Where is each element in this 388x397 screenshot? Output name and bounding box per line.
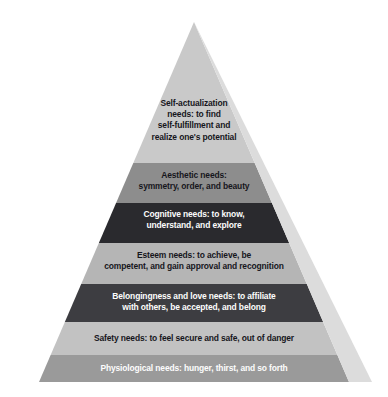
tier-band-self-actualization (0, 0, 388, 163)
tier-band-aesthetic (0, 163, 388, 203)
tier-band-physiological (0, 355, 388, 397)
pyramid-front-face (0, 0, 388, 397)
pyramid-diagram (0, 0, 388, 397)
maslow-pyramid-figure: Self-actualization needs: to find self-f… (0, 0, 388, 397)
tier-band-esteem (0, 243, 388, 284)
tier-band-cognitive (0, 203, 388, 243)
